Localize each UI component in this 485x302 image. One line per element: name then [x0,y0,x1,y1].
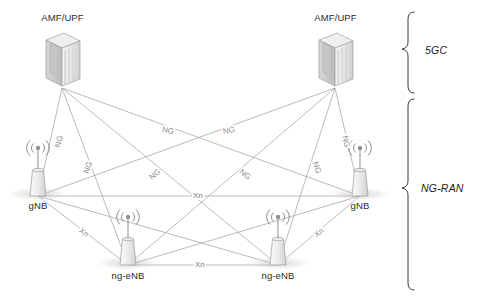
link-line-ng-2 [62,88,128,265]
group-label-5gc: 5GC [425,44,447,56]
core-node-label-amf-upf-left: AMF/UPF [30,12,95,23]
server-icon [46,33,80,86]
brace-ng-ran [402,99,414,290]
brace-5gc [402,12,414,93]
link-line-xn-5 [38,196,278,265]
group-label-ng-ran: NG-RAN [421,182,464,194]
link-label-xn-1: Xn [192,191,204,200]
server-icon [319,33,353,86]
ran-node-label-gnb-right: gNB [330,200,390,211]
ran-node-label-ng-enb-left: ng-eNB [93,270,163,281]
network-architecture-diagram: AMF/UPF AMF/UPF gNB gNB ng-eNB ng-eNB NG… [0,0,485,302]
link-line-ng-6 [278,88,335,265]
diagram-canvas [0,0,485,302]
link-line-ng-4 [62,88,360,196]
ran-node-label-gnb-left: gNB [8,200,68,211]
link-label-xn-2: Xn [194,260,206,269]
link-line-ng-8 [38,88,335,196]
group-braces [402,12,414,290]
core-node-label-amf-upf-right: AMF/UPF [303,12,368,23]
ran-node-label-ng-enb-right: ng-eNB [243,270,313,281]
